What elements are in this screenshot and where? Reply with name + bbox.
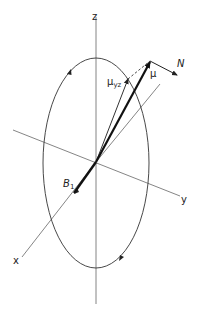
x-axis-label: x [13, 255, 19, 266]
precession-diagram: z y x μ μyz N B1 [0, 0, 197, 310]
direction-arrow-icon [119, 255, 124, 261]
z-axis-label: z [92, 11, 97, 22]
mu-vector [96, 62, 150, 162]
b1-vector [74, 162, 96, 193]
torque-label: N [177, 58, 185, 69]
direction-arrow-icon [67, 69, 72, 75]
mu-yz-vector [96, 79, 128, 162]
b1-label: B1 [63, 178, 74, 191]
mu-yz-label: μyz [107, 76, 122, 89]
guide-line [96, 84, 160, 162]
mu-label: μ [150, 68, 157, 79]
y-axis-label: y [181, 194, 187, 205]
